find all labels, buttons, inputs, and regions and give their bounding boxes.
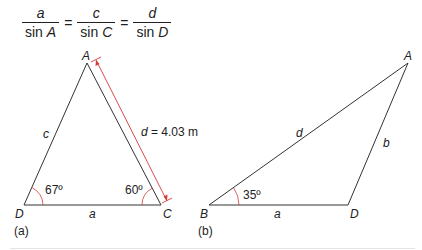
angle-arc-c xyxy=(142,188,152,205)
vertex-label-d-b: D xyxy=(350,208,359,220)
dimension-label: d = 4.03 m xyxy=(141,126,198,138)
angle-arc-d xyxy=(32,188,43,205)
triangle-b-shape xyxy=(209,63,408,205)
dimension-var: d xyxy=(141,125,148,139)
angle-label-b: 35º xyxy=(243,189,261,201)
triangle-b xyxy=(209,63,408,205)
vertex-label-a: A xyxy=(82,50,90,62)
side-label-a: a xyxy=(89,208,96,220)
side-label-c: c xyxy=(43,128,49,140)
vertex-label-d: D xyxy=(15,208,24,220)
angle-label-c: 60º xyxy=(125,184,143,196)
angle-arc-b xyxy=(234,188,239,205)
angle-label-d: 67º xyxy=(45,184,63,196)
side-label-d: d xyxy=(296,127,303,139)
side-label-b: b xyxy=(383,137,390,149)
vertex-label-a-b: A xyxy=(404,50,412,62)
bottom-divider xyxy=(10,248,415,249)
side-label-a-b: a xyxy=(274,208,281,220)
dimension-value: = 4.03 m xyxy=(148,125,198,139)
caption-a: (a) xyxy=(14,225,29,237)
caption-b: (b) xyxy=(198,225,213,237)
vertex-label-b: B xyxy=(200,208,208,220)
vertex-label-c: C xyxy=(163,208,172,220)
